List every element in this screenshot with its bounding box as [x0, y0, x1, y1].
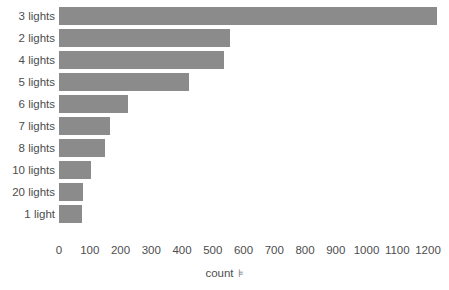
- bar-chart: 3 lights2 lights4 lights5 lights6 lights…: [0, 0, 449, 290]
- bar-track: [55, 49, 449, 71]
- category-label: 6 lights: [0, 97, 55, 111]
- bar-row: 20 lights: [0, 181, 449, 203]
- x-tick-label: 400: [172, 243, 191, 257]
- bar[interactable]: [59, 73, 189, 91]
- sort-descending-icon[interactable]: ⊧: [238, 266, 244, 280]
- bar[interactable]: [59, 161, 91, 179]
- bar-row: 3 lights: [0, 5, 449, 27]
- bar[interactable]: [59, 205, 82, 223]
- x-tick-label: 900: [326, 243, 345, 257]
- x-tick-label: 1000: [354, 243, 380, 257]
- category-label: 10 lights: [0, 163, 55, 177]
- bar[interactable]: [59, 117, 110, 135]
- x-tick-label: 1100: [385, 243, 410, 257]
- x-tick-label: 700: [265, 243, 284, 257]
- bar-track: [55, 27, 449, 49]
- x-axis: 0100200300400500600700800900100011001200: [0, 243, 449, 263]
- category-label: 3 lights: [0, 9, 55, 23]
- bar-row: 10 lights: [0, 159, 449, 181]
- x-axis-title-label: count: [205, 267, 233, 279]
- bar-track: [55, 137, 449, 159]
- bar[interactable]: [59, 183, 83, 201]
- category-label: 8 lights: [0, 141, 55, 155]
- category-label: 5 lights: [0, 75, 55, 89]
- bar[interactable]: [59, 95, 128, 113]
- bar-track: [55, 93, 449, 115]
- x-tick-label: 0: [56, 243, 62, 257]
- bar-row: 4 lights: [0, 49, 449, 71]
- x-tick-label: 200: [111, 243, 130, 257]
- bar[interactable]: [59, 29, 230, 47]
- bar-row: 5 lights: [0, 71, 449, 93]
- x-tick-label: 500: [203, 243, 222, 257]
- bar[interactable]: [59, 7, 437, 25]
- category-label: 1 light: [0, 207, 55, 221]
- x-tick-label: 800: [295, 243, 314, 257]
- bar-row: 1 light: [0, 203, 449, 225]
- plot-area: 3 lights2 lights4 lights5 lights6 lights…: [0, 0, 449, 243]
- x-tick-label: 600: [234, 243, 253, 257]
- x-axis-title: count⊧: [0, 266, 449, 280]
- bar[interactable]: [59, 139, 105, 157]
- bar-track: [55, 159, 449, 181]
- category-label: 20 lights: [0, 185, 55, 199]
- x-tick-label: 300: [142, 243, 161, 257]
- bar-row: 8 lights: [0, 137, 449, 159]
- bar-row: 6 lights: [0, 93, 449, 115]
- bar-track: [55, 71, 449, 93]
- x-tick-label: 100: [80, 243, 99, 257]
- bar-track: [55, 181, 449, 203]
- category-label: 4 lights: [0, 53, 55, 67]
- x-tick-label: 1200: [415, 243, 441, 257]
- bar-track: [55, 115, 449, 137]
- category-label: 2 lights: [0, 31, 55, 45]
- category-label: 7 lights: [0, 119, 55, 133]
- bar-track: [55, 203, 449, 225]
- bar-track: [55, 5, 449, 27]
- bar[interactable]: [59, 51, 224, 69]
- bar-row: 7 lights: [0, 115, 449, 137]
- bar-row: 2 lights: [0, 27, 449, 49]
